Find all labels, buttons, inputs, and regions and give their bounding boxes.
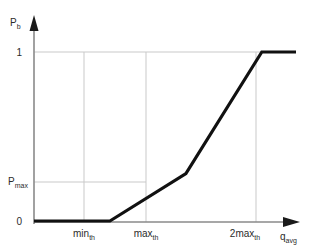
x-axis-arrow-icon (283, 217, 300, 227)
y-axis-title: Pb (10, 17, 21, 30)
y-tick-label-pmax: Pmax (8, 176, 28, 189)
x-tick-label-minth: minth (73, 228, 95, 241)
chart-canvas: 0 Pmax 1 minth maxth 2maxth Pb qavg (0, 0, 320, 250)
drop-probability-curve (34, 52, 296, 221)
y-tick-label-0: 0 (16, 216, 22, 227)
y-tick-label-1: 1 (16, 47, 22, 58)
red-drop-probability-chart: 0 Pmax 1 minth maxth 2maxth Pb qavg (0, 0, 320, 250)
x-tick-label-maxth: maxth (134, 228, 159, 241)
y-axis-arrow-icon (30, 15, 39, 31)
x-axis-title: qavg (280, 231, 297, 245)
x-tick-label-2maxth: 2maxth (230, 228, 260, 241)
